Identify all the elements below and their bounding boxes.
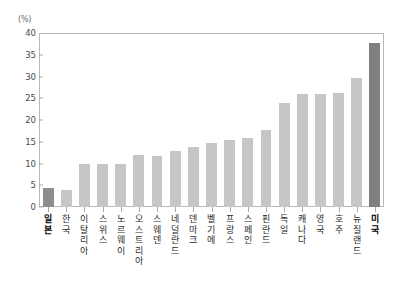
x-axis-category-label: 프랑스 <box>221 214 239 246</box>
bar-slot <box>79 33 90 207</box>
x-axis-category-label: 노르웨이 <box>112 214 130 256</box>
bar-slot <box>224 33 235 207</box>
x-axis-tick-mark <box>320 207 321 212</box>
bar <box>115 164 126 207</box>
label-char: 탈 <box>75 225 93 236</box>
label-char: 드 <box>166 246 184 257</box>
label-char: 스 <box>221 235 239 246</box>
y-axis-tick-mark <box>39 141 43 142</box>
bar-slot <box>152 33 163 207</box>
x-axis-tick-mark <box>266 207 267 212</box>
bar <box>43 188 54 207</box>
label-char: 크 <box>184 235 202 246</box>
bar-slot <box>297 33 308 207</box>
x-axis-tick-mark <box>284 207 285 212</box>
y-axis-tick-mark <box>39 54 43 55</box>
bar <box>279 103 290 207</box>
label-char: 벨 <box>202 214 220 225</box>
bar <box>206 143 217 207</box>
y-axis-tick-mark <box>39 98 43 99</box>
bar <box>133 155 144 207</box>
label-char: 란 <box>166 235 184 246</box>
label-char: 오 <box>130 214 148 225</box>
label-char: 질 <box>348 225 366 236</box>
y-axis-tick-label: 20 <box>14 115 36 125</box>
x-axis-category-label: 네덜란드 <box>166 214 184 256</box>
label-char: 웨 <box>148 225 166 236</box>
label-char: 덴 <box>184 214 202 225</box>
x-axis-category-label: 뉴질랜드 <box>348 214 366 256</box>
label-char: 스 <box>93 214 111 225</box>
bar <box>242 138 253 207</box>
bar-chart: (%) 0510152025303540 일본한국이탈리아스위스노르웨이오스트리… <box>0 0 406 287</box>
label-char: 스 <box>148 214 166 225</box>
label-char: 다 <box>293 235 311 246</box>
label-char: 트 <box>130 235 148 246</box>
x-axis-tick-mark <box>193 207 194 212</box>
bar <box>188 147 199 207</box>
x-axis-category-label: 오스트리아 <box>130 214 148 267</box>
x-axis-tick-mark <box>66 207 67 212</box>
x-axis-tick-mark <box>157 207 158 212</box>
bar-slot <box>369 33 380 207</box>
label-char: 페 <box>239 225 257 236</box>
bar-slot <box>115 33 126 207</box>
bar <box>297 94 308 207</box>
label-char: 일 <box>39 214 57 225</box>
label-char: 리 <box>130 246 148 257</box>
x-axis-category-label: 핀란드 <box>257 214 275 246</box>
bar <box>79 164 90 208</box>
label-char: 국 <box>57 225 75 236</box>
label-char: 일 <box>275 225 293 236</box>
label-char: 미 <box>366 214 384 225</box>
label-char: 캐 <box>293 214 311 225</box>
x-axis-category-label: 독일 <box>275 214 293 235</box>
label-char: 덜 <box>166 225 184 236</box>
y-axis-tick-label: 35 <box>14 50 36 60</box>
label-char: 아 <box>75 246 93 257</box>
x-axis-category-label: 영국 <box>311 214 329 235</box>
label-char: 덴 <box>148 235 166 246</box>
label-char: 스 <box>130 225 148 236</box>
label-char: 스 <box>239 214 257 225</box>
label-char: 호 <box>330 214 348 225</box>
x-axis-tick-mark <box>357 207 358 212</box>
label-char: 드 <box>348 246 366 257</box>
x-axis-tick-mark <box>302 207 303 212</box>
y-axis-tick-mark <box>39 76 43 77</box>
x-axis-category-label: 덴마크 <box>184 214 202 246</box>
y-axis-tick-label: 30 <box>14 72 36 82</box>
label-char: 기 <box>202 225 220 236</box>
bar <box>152 156 163 207</box>
bar-slot <box>170 33 181 207</box>
x-axis-category-label: 캐나다 <box>293 214 311 246</box>
x-axis-tick-mark <box>48 207 49 212</box>
label-char: 인 <box>239 235 257 246</box>
label-char: 랑 <box>221 225 239 236</box>
label-char: 르 <box>112 225 130 236</box>
y-axis-tick-label: 40 <box>14 28 36 38</box>
bar <box>261 130 272 207</box>
bar-slot <box>61 33 72 207</box>
x-axis-tick-mark <box>121 207 122 212</box>
y-axis-tick-mark <box>39 185 43 186</box>
bar <box>224 140 235 207</box>
y-axis-tick-label: 10 <box>14 159 36 169</box>
label-char: 리 <box>75 235 93 246</box>
label-char: 란 <box>257 225 275 236</box>
x-axis-tick-mark <box>84 207 85 212</box>
label-char: 나 <box>293 225 311 236</box>
bar <box>170 151 181 207</box>
bar-slot <box>279 33 290 207</box>
bar-slot <box>133 33 144 207</box>
label-char: 스 <box>93 235 111 246</box>
x-axis-category-label: 한국 <box>57 214 75 235</box>
label-char: 독 <box>275 214 293 225</box>
x-axis-category-label: 일본 <box>39 214 57 235</box>
bar <box>315 94 326 207</box>
bar-slot <box>43 33 54 207</box>
x-axis-tick-mark <box>248 207 249 212</box>
label-char: 프 <box>221 214 239 225</box>
label-char: 국 <box>311 225 329 236</box>
y-axis-tick-mark <box>39 207 43 208</box>
